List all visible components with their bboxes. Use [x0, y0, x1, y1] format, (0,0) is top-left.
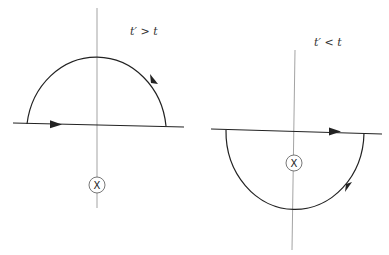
left-contour-arc	[27, 57, 166, 126]
contour-diagram: X t′ > t X t′ < t	[0, 0, 389, 255]
right-real-axis-arrow-icon	[329, 128, 341, 136]
right-imaginary-axis	[292, 50, 295, 250]
left-arc-arrow-icon	[150, 74, 158, 84]
left-panel: X t′ > t	[13, 8, 184, 208]
right-panel-label: t′ < t	[314, 36, 342, 49]
right-real-axis-contour	[211, 129, 382, 134]
left-pole-marker: X	[94, 180, 101, 191]
left-panel-label: t′ > t	[130, 25, 158, 38]
left-real-axis-contour	[13, 123, 184, 127]
right-panel: X t′ < t	[211, 36, 382, 250]
left-real-axis-arrow-icon	[50, 120, 62, 128]
right-pole-marker: X	[291, 158, 298, 169]
